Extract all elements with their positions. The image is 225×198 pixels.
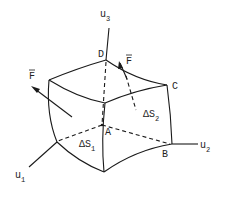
left-vertical-edge <box>48 80 57 142</box>
u2-label: u2 <box>200 140 210 154</box>
right-vertical-edge <box>167 85 172 144</box>
delta-s2-label: ΔS2 <box>143 109 159 123</box>
force-left-label: F <box>29 71 35 82</box>
force-right-label: F <box>126 56 132 67</box>
point-D-label: D <box>98 49 104 60</box>
force-arrow-right-head <box>118 61 123 69</box>
point-A-label: A <box>105 127 111 138</box>
point-B-label: B <box>162 149 168 160</box>
curvilinear-volume-element-diagram: u3 D F C F ΔS2 A ΔS1 B u2 u1 <box>0 0 225 198</box>
u1-axis <box>29 142 57 167</box>
point-A <box>101 124 103 126</box>
top-edge-front-right <box>105 85 167 103</box>
top-edge-right <box>106 60 167 85</box>
top-edge-left <box>49 60 106 80</box>
u1-label: u1 <box>15 170 25 184</box>
u3-label: u3 <box>100 9 110 23</box>
dS2-leader <box>126 76 136 110</box>
hidden-edge-AB <box>102 125 170 144</box>
delta-s1-label: ΔS1 <box>79 139 95 153</box>
force-arrow-left <box>35 89 72 117</box>
u3-axis <box>106 28 109 60</box>
point-C-label: C <box>172 81 178 92</box>
top-edge-front-left <box>49 80 105 103</box>
